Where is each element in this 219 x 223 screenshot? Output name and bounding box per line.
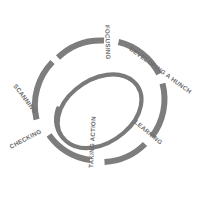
spiral-ellipse-path: [56, 74, 141, 148]
label-action: TAKING ACTION: [87, 116, 97, 168]
ring-arc-action: [105, 144, 146, 162]
ring-arc-focusing: [58, 40, 104, 57]
ring-arc-learning: [152, 84, 165, 137]
cycle-diagram: SCANNING FOCUSING DEVELOPING A HUNCH LEA…: [0, 0, 219, 223]
figure-canvas: Figure 2.2The cycle of sensemaking and i…: [0, 0, 219, 223]
inner-spiral: [56, 74, 141, 148]
label-focusing: FOCUSING: [104, 25, 112, 60]
label-checking: CHECKING: [8, 127, 42, 150]
